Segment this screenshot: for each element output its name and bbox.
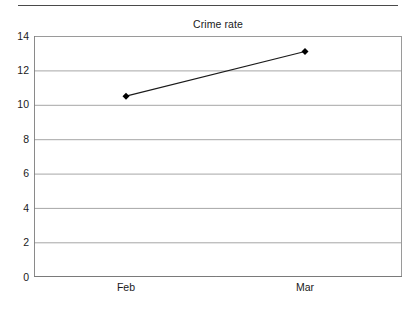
y-axis-tick-label-4: 4 xyxy=(3,203,29,214)
y-axis-tick-label-8: 8 xyxy=(3,134,29,145)
x-axis-tick-label-feb: Feb xyxy=(96,282,156,293)
plot-background xyxy=(34,36,402,277)
chart-title: Crime rate xyxy=(34,18,402,30)
plot-area xyxy=(34,36,402,277)
y-axis-tick-label-10: 10 xyxy=(3,99,29,110)
y-axis-tick-label-2: 2 xyxy=(3,237,29,248)
y-axis-tick-label-6: 6 xyxy=(3,168,29,179)
y-axis-tick-label-0: 0 xyxy=(3,272,29,283)
top-horizontal-rule xyxy=(18,5,398,6)
chart-figure: Crime rate 14 12 10 8 6 4 2 0 Feb Mar xyxy=(0,0,418,314)
chart-svg xyxy=(34,36,402,277)
y-axis-tick-label-14: 14 xyxy=(3,31,29,42)
x-axis-tick-label-mar: Mar xyxy=(275,282,335,293)
y-axis-tick-label-12: 12 xyxy=(3,65,29,76)
